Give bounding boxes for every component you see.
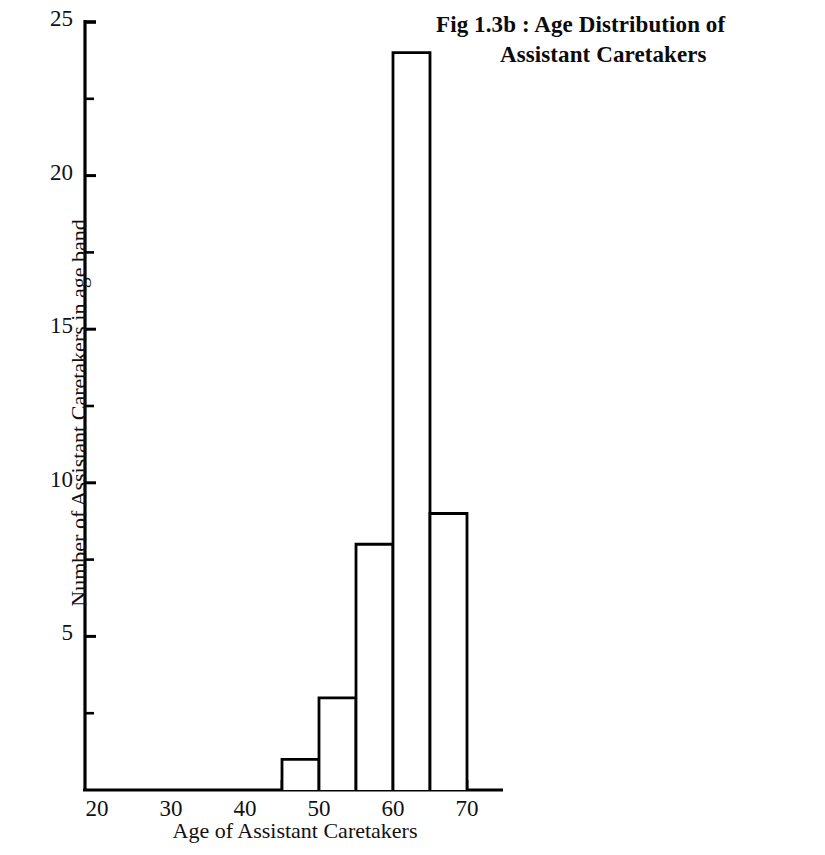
y-tick-label: 25 [23,6,73,32]
chart-svg [0,0,825,855]
histogram-bar [319,698,356,790]
y-tick-label: 20 [23,160,73,186]
x-tick-label: 40 [220,796,270,822]
x-tick-label: 20 [72,796,122,822]
bars-group [282,53,467,790]
histogram-bar [356,544,393,790]
x-tick-label: 70 [442,796,492,822]
x-tick-label: 50 [294,796,344,822]
figure-root: Fig 1.3b : Age Distribution of Assistant… [0,0,825,855]
x-tick-label: 30 [146,796,196,822]
y-tick-label: 5 [23,620,73,646]
histogram-bar [282,759,319,790]
plot-area [0,0,825,855]
y-tick-label: 10 [23,467,73,493]
histogram-bar [393,53,430,790]
y-tick-label: 15 [23,313,73,339]
histogram-bar [430,514,467,790]
x-tick-label: 60 [368,796,418,822]
